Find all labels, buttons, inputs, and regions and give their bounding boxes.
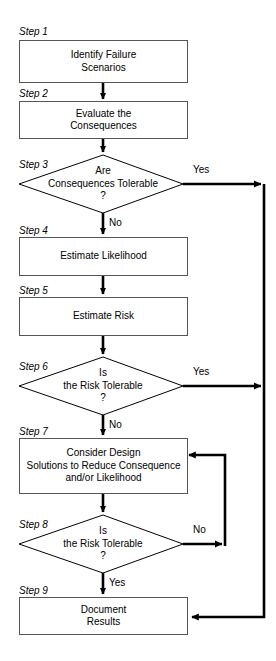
step-label-6: Step 6: [19, 361, 48, 372]
connector-right-bus-to-step9: [192, 184, 264, 617]
edge-label-step8-yes: Yes: [109, 577, 125, 588]
process-box-step9: Document Results: [19, 597, 188, 635]
edge-label-step3-no: No: [109, 217, 122, 228]
process-box-step4: Estimate Likelihood: [19, 237, 188, 276]
process-box-step1: Identify Failure Scenarios: [19, 40, 188, 83]
edge-label-step6-no: No: [109, 419, 122, 430]
step-label-9: Step 9: [19, 585, 48, 596]
process-box-step7: Consider Design Solutions to Reduce Cons…: [19, 438, 188, 494]
process-box-step2: Evaluate the Consequences: [19, 101, 188, 139]
step-label-2: Step 2: [19, 88, 48, 99]
step-label-1: Step 1: [19, 26, 48, 37]
edge-label-step6-yes: Yes: [193, 366, 209, 377]
flowchart-diagram: Step 1 Step 2 Step 3 Step 4 Step 5 Step …: [0, 0, 276, 661]
step-label-8: Step 8: [19, 519, 48, 530]
step-label-5: Step 5: [19, 285, 48, 296]
step-label-7: Step 7: [19, 426, 48, 437]
step-label-3: Step 3: [19, 159, 48, 170]
edge-label-step3-yes: Yes: [193, 164, 209, 175]
process-box-step5: Estimate Risk: [19, 297, 188, 336]
edge-label-step8-no: No: [193, 524, 206, 535]
step-label-4: Step 4: [19, 225, 48, 236]
